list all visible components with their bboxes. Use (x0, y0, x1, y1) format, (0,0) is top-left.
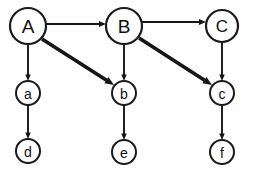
edge-A-a (25, 44, 30, 81)
edge-B-C (142, 19, 206, 25)
node-label-f: f (220, 145, 224, 161)
graph-node-A[interactable]: A (10, 8, 46, 44)
node-label-B: B (118, 16, 131, 37)
node-label-b: b (120, 86, 128, 102)
directed-graph: ABCabcdef (0, 0, 254, 175)
edge-C-c (219, 42, 224, 81)
graph-node-C[interactable]: C (206, 10, 238, 42)
graph-node-b[interactable]: b (112, 81, 136, 105)
graph-node-c[interactable]: c (210, 81, 234, 105)
edge-line-A-b (42, 39, 107, 80)
node-label-d: d (24, 144, 32, 160)
node-label-A: A (22, 16, 35, 37)
edge-A-B (46, 21, 106, 27)
node-label-a: a (24, 86, 32, 102)
edge-b-e (121, 105, 126, 140)
edge-line-B-c (139, 38, 205, 80)
node-layer: ABCabcdef (10, 8, 238, 164)
graph-node-f[interactable]: f (210, 140, 234, 164)
diagram-canvas: ABCabcdef (0, 0, 254, 175)
edge-a-d (25, 105, 30, 139)
node-label-C: C (216, 17, 228, 36)
graph-node-B[interactable]: B (106, 8, 142, 44)
graph-node-d[interactable]: d (16, 139, 40, 163)
node-label-c: c (219, 86, 226, 102)
edge-B-b (121, 44, 126, 81)
graph-node-e[interactable]: e (112, 140, 136, 164)
arrowhead-icon-B-C (199, 19, 206, 25)
node-label-e: e (120, 145, 128, 161)
edge-A-b (42, 39, 114, 85)
graph-node-a[interactable]: a (16, 81, 40, 105)
edge-B-c (139, 38, 212, 85)
edge-c-f (219, 105, 224, 140)
